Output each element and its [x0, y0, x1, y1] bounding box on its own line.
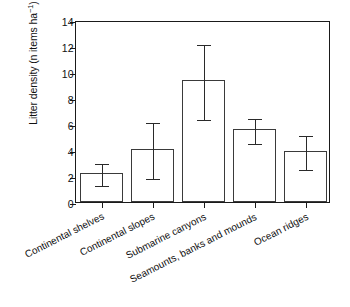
x-axis-tick-label: Ocean ridges	[252, 211, 310, 248]
error-bar-cap-upper	[146, 123, 160, 124]
y-axis-tick-label: 0	[33, 198, 73, 210]
error-bar-cap-upper	[299, 136, 313, 137]
error-bar	[204, 45, 205, 120]
error-bar-cap-lower	[248, 144, 262, 145]
y-axis-tick-label: 14	[33, 16, 73, 28]
error-bar-cap-lower	[146, 179, 160, 180]
x-axis-tick-label: Continental shelves	[23, 211, 106, 260]
x-axis-tick	[102, 202, 103, 208]
chart-figure: Litter density (n items ha−1) 0246810121…	[0, 0, 350, 307]
y-axis-tick-label: 12	[33, 42, 73, 54]
error-bar-cap-lower	[197, 120, 211, 121]
y-axis-tick-label: 2	[33, 172, 73, 184]
error-bar-cap-upper	[197, 45, 211, 46]
x-axis-tick	[306, 202, 307, 208]
error-bar	[306, 136, 307, 169]
y-axis-tick-label: 10	[33, 68, 73, 80]
y-axis-title-exponent: −1	[26, 5, 35, 13]
x-axis-tick	[204, 202, 205, 208]
error-bar	[102, 164, 103, 187]
error-bar-cap-lower	[299, 170, 313, 171]
error-bar	[153, 123, 154, 179]
x-axis-tick	[255, 202, 256, 208]
error-bar	[255, 119, 256, 144]
error-bar-cap-upper	[95, 164, 109, 165]
y-axis-title-suffix: )	[27, 1, 39, 4]
x-axis-tick	[153, 202, 154, 208]
y-axis-tick-label: 8	[33, 94, 73, 106]
y-axis-tick-label: 4	[33, 146, 73, 158]
plot-area: 02468101214	[75, 21, 330, 203]
y-axis-tick-label: 6	[33, 120, 73, 132]
error-bar-cap-lower	[95, 186, 109, 187]
error-bar-cap-upper	[248, 119, 262, 120]
